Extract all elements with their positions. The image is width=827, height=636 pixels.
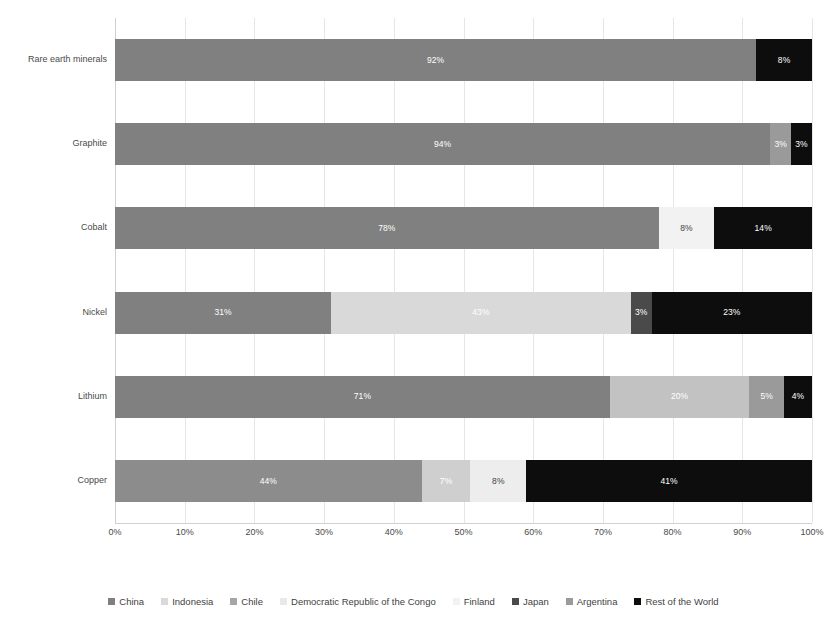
x-axis-line: [115, 523, 812, 524]
segment-value-label: 94%: [434, 140, 451, 149]
legend-item[interactable]: Argentina: [566, 596, 618, 607]
category-label: Rare earth minerals: [0, 54, 107, 64]
segment-value-label: 7%: [440, 477, 453, 486]
legend-swatch-icon: [161, 598, 168, 605]
bar-row: 44%7%8%41%: [115, 439, 812, 523]
bar-segment[interactable]: 8%: [470, 460, 526, 502]
legend-item[interactable]: Rest of the World: [634, 596, 718, 607]
bar-segment[interactable]: 3%: [770, 123, 791, 165]
bar-segment[interactable]: 5%: [749, 376, 784, 418]
segment-value-label: 44%: [260, 477, 277, 486]
x-tick-label: 30%: [315, 527, 333, 537]
legend-label: Finland: [464, 596, 495, 607]
legend-label: Japan: [523, 596, 549, 607]
legend-label: China: [119, 596, 144, 607]
segment-value-label: 14%: [755, 224, 772, 233]
x-tick-label: 70%: [594, 527, 612, 537]
segment-value-label: 8%: [680, 224, 693, 233]
bar-segment[interactable]: 94%: [115, 123, 770, 165]
segment-value-label: 71%: [354, 392, 371, 401]
segment-value-label: 3%: [635, 308, 648, 317]
x-tick-label: 40%: [385, 527, 403, 537]
bar-segment[interactable]: 4%: [784, 376, 812, 418]
x-tick-label: 20%: [245, 527, 263, 537]
bar-segment[interactable]: 43%: [331, 292, 631, 334]
segment-value-label: 3%: [774, 140, 787, 149]
bar-segment[interactable]: 44%: [115, 460, 422, 502]
bar-segment[interactable]: 8%: [756, 39, 812, 81]
x-tick-label: 50%: [454, 527, 472, 537]
segment-value-label: 41%: [660, 477, 677, 486]
segment-value-label: 4%: [792, 392, 805, 401]
category-label: Lithium: [0, 391, 107, 401]
category-label: Graphite: [0, 138, 107, 148]
legend-item[interactable]: Finland: [453, 596, 495, 607]
legend-swatch-icon: [634, 598, 641, 605]
bar-row: 71%20%5%4%: [115, 355, 812, 439]
segment-value-label: 78%: [378, 224, 395, 233]
segment-value-label: 23%: [723, 308, 740, 317]
x-tick-label: 90%: [733, 527, 751, 537]
legend-swatch-icon: [566, 598, 573, 605]
chart-legend: ChinaIndonesiaChileDemocratic Republic o…: [0, 596, 827, 607]
legend-swatch-icon: [230, 598, 237, 605]
segment-value-label: 5%: [760, 392, 773, 401]
segment-value-label: 8%: [492, 477, 505, 486]
x-axis-ticks: 0%10%20%30%40%50%60%70%80%90%100%: [115, 527, 812, 543]
segment-value-label: 8%: [778, 56, 791, 65]
bar-segment[interactable]: 31%: [115, 292, 331, 334]
legend-item[interactable]: Indonesia: [161, 596, 213, 607]
segment-value-label: 92%: [427, 56, 444, 65]
stacked-bar-chart: 92%8%94%3%3%78%8%14%31%43%3%23%71%20%5%4…: [0, 0, 827, 636]
bar-segment[interactable]: 14%: [714, 207, 812, 249]
segment-value-label: 3%: [795, 140, 808, 149]
x-tick-label: 80%: [664, 527, 682, 537]
bar-segment[interactable]: 8%: [659, 207, 715, 249]
stacked-bar[interactable]: 92%8%: [115, 39, 812, 81]
legend-label: Democratic Republic of the Congo: [291, 596, 436, 607]
segment-value-label: 43%: [472, 308, 489, 317]
category-label: Cobalt: [0, 222, 107, 232]
stacked-bar[interactable]: 71%20%5%4%: [115, 376, 812, 418]
x-tick-label: 60%: [524, 527, 542, 537]
legend-label: Argentina: [577, 596, 618, 607]
bar-row: 94%3%3%: [115, 102, 812, 186]
bar-segment[interactable]: 7%: [422, 460, 471, 502]
legend-item[interactable]: Chile: [230, 596, 263, 607]
x-tick-label: 10%: [176, 527, 194, 537]
legend-swatch-icon: [453, 598, 460, 605]
bar-segment[interactable]: 78%: [115, 207, 659, 249]
bar-segment[interactable]: 92%: [115, 39, 756, 81]
legend-item[interactable]: Japan: [512, 596, 549, 607]
bar-segment[interactable]: 23%: [652, 292, 812, 334]
bar-segment[interactable]: 3%: [791, 123, 812, 165]
gridline: [812, 18, 813, 523]
stacked-bar[interactable]: 94%3%3%: [115, 123, 812, 165]
stacked-bar[interactable]: 78%8%14%: [115, 207, 812, 249]
category-label: Copper: [0, 475, 107, 485]
bar-segment[interactable]: 3%: [631, 292, 652, 334]
category-label: Nickel: [0, 307, 107, 317]
bar-segment[interactable]: 71%: [115, 376, 610, 418]
legend-swatch-icon: [512, 598, 519, 605]
segment-value-label: 20%: [671, 392, 688, 401]
stacked-bar[interactable]: 44%7%8%41%: [115, 460, 812, 502]
bar-row: 92%8%: [115, 18, 812, 102]
legend-item[interactable]: Democratic Republic of the Congo: [280, 596, 436, 607]
legend-swatch-icon: [280, 598, 287, 605]
plot-area: 92%8%94%3%3%78%8%14%31%43%3%23%71%20%5%4…: [115, 18, 812, 523]
segment-value-label: 31%: [214, 308, 231, 317]
bar-segment[interactable]: 41%: [526, 460, 812, 502]
legend-label: Indonesia: [172, 596, 213, 607]
x-tick-label: 0%: [108, 527, 121, 537]
legend-label: Rest of the World: [645, 596, 718, 607]
x-tick-label: 100%: [800, 527, 823, 537]
stacked-bar[interactable]: 31%43%3%23%: [115, 292, 812, 334]
bar-row: 31%43%3%23%: [115, 271, 812, 355]
legend-swatch-icon: [108, 598, 115, 605]
legend-item[interactable]: China: [108, 596, 144, 607]
bar-segment[interactable]: 20%: [610, 376, 749, 418]
legend-label: Chile: [241, 596, 263, 607]
bar-row: 78%8%14%: [115, 186, 812, 270]
